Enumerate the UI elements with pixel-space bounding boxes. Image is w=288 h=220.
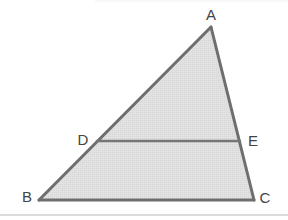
triangle-diagram: A B C D E [0, 0, 288, 220]
vertex-label-a: A [206, 6, 216, 23]
vertex-label-d: D [78, 131, 89, 148]
vertex-label-b: B [22, 188, 32, 205]
vertex-label-c: C [260, 189, 271, 206]
vertex-label-e: E [248, 132, 258, 149]
triangle-abc-fill [39, 27, 254, 200]
